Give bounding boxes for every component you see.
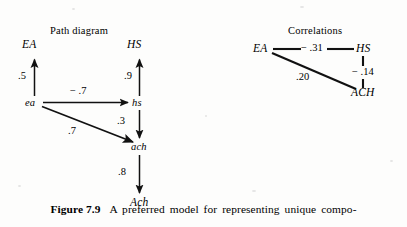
- coefficient-hs-to-HS: .9: [124, 70, 132, 81]
- figure-caption-label: Figure 7.9: [50, 203, 100, 215]
- node-corr-EA: EA: [253, 42, 267, 54]
- figure-caption: Figure 7.9 A preferred model for represe…: [0, 203, 407, 215]
- node-hs-unique: hs: [132, 97, 142, 108]
- panel-title-path-diagram: Path diagram: [50, 25, 108, 36]
- coefficient-ach-to-Ach: .8: [118, 166, 126, 177]
- coefficient-ea-to-hs: − .7: [70, 85, 86, 96]
- coefficient-corr-EA-HS: − .31: [301, 42, 323, 53]
- panel-title-correlations: Correlations: [288, 25, 342, 36]
- node-corr-ACH: ACH: [351, 86, 375, 98]
- coefficient-ea-to-EA: .5: [18, 70, 26, 81]
- coefficient-ea-to-ach: .7: [68, 125, 76, 136]
- node-ach-unique: ach: [131, 141, 147, 152]
- node-corr-HS: HS: [356, 42, 370, 54]
- coefficient-corr-EA-ACH: .20: [296, 71, 309, 82]
- coefficient-corr-HS-ACH: − .14: [352, 66, 374, 77]
- figure-container: Path diagram EA HS ea hs ach Ach .5 .9 −…: [0, 0, 407, 227]
- figure-caption-text: A preferred model for representing uniqu…: [109, 203, 356, 215]
- node-ea-unique: ea: [25, 97, 35, 108]
- node-EA-latent: EA: [22, 38, 36, 50]
- coefficient-hs-to-ach: .3: [117, 115, 125, 126]
- node-HS-latent: HS: [127, 38, 141, 50]
- edge-corr-EA-ACH: [272, 53, 356, 89]
